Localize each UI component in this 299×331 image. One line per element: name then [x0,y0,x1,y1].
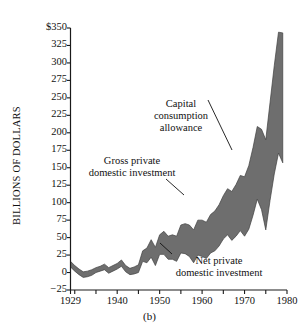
gross-leader-line [166,179,184,195]
figure-caption: (b) [0,310,299,322]
annotation-net-line-2: domestic investment [158,267,280,279]
annotation-capital-line-1: Capital [138,98,224,110]
x-axis-tick-label: 1929 [60,296,81,307]
x-axis-tick-label: 1940 [107,296,128,307]
annotation-capital-line-3: allowance [138,122,224,134]
x-axis-tick-label: 1960 [192,296,213,307]
annotation-net-line-1: Net private [158,255,280,267]
x-axis-tick-label: 1970 [234,296,255,307]
annotation-gross-private-domestic-investment: Gross private domestic investment [74,155,190,179]
annotation-capital-consumption-allowance: Capital consumption allowance [138,98,224,134]
annotation-net-private-domestic-investment: Net private domestic investment [158,255,280,279]
x-axis-tick-label: 1950 [149,296,170,307]
x-axis-tick-label: 1980 [277,296,298,307]
annotation-gross-line-2: domestic investment [74,167,190,179]
annotation-capital-line-2: consumption [138,110,224,122]
figure-b: $350325300275250225200175150125100755025… [0,0,299,331]
annotation-gross-line-1: Gross private [74,155,190,167]
